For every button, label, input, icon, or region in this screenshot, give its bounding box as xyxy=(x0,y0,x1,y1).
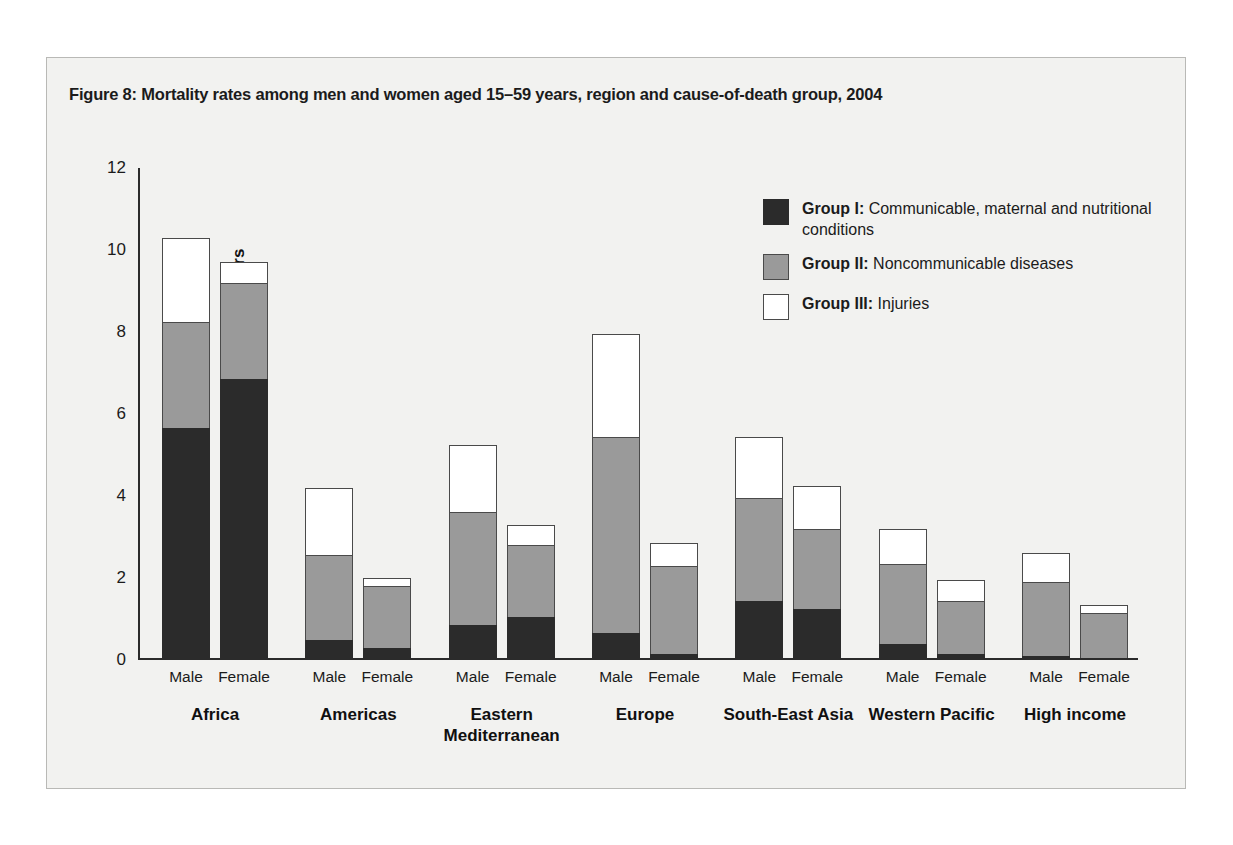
bar-segment-group1 xyxy=(735,601,783,660)
x-label-female: Female xyxy=(921,668,1001,686)
bar-segment-group2 xyxy=(879,564,927,644)
bar-segment-group1 xyxy=(592,633,640,660)
bar-segment-group3 xyxy=(363,578,411,586)
y-tick-label: 8 xyxy=(86,322,126,342)
bar-segment-group1 xyxy=(1022,656,1070,660)
bar-segment-group2 xyxy=(937,601,985,654)
bar-segment-group3 xyxy=(220,262,268,283)
bar-segment-group2 xyxy=(1080,613,1128,658)
bar-segment-group3 xyxy=(1080,605,1128,613)
bar-segment-group3 xyxy=(650,543,698,566)
y-tick-label: 4 xyxy=(86,486,126,506)
bar-segment-group1 xyxy=(937,654,985,660)
bar-segment-group1 xyxy=(162,428,210,660)
chart-legend: Group I: Communicable, maternal and nutr… xyxy=(763,198,1153,333)
bar-europe-female[interactable] xyxy=(650,543,698,660)
bar-western-pacific-female[interactable] xyxy=(937,580,985,660)
y-axis-line xyxy=(138,168,140,660)
bar-segment-group2 xyxy=(363,586,411,648)
figure-card: Figure 8: Mortality rates among men and … xyxy=(46,57,1186,789)
bar-south-east-asia-male[interactable] xyxy=(735,437,783,660)
bar-africa-male[interactable] xyxy=(162,238,210,660)
legend-item-group1[interactable]: Group I: Communicable, maternal and nutr… xyxy=(763,198,1153,240)
page-title: Figure 8: Mortality rates among men and … xyxy=(69,85,882,104)
bar-segment-group2 xyxy=(592,437,640,634)
bar-segment-group3 xyxy=(305,488,353,556)
bar-segment-group1 xyxy=(507,617,555,660)
bar-segment-group3 xyxy=(507,525,555,546)
legend-swatch-group1 xyxy=(763,199,789,225)
legend-label-group3: Group III: Injuries xyxy=(802,293,929,314)
x-label-female: Female xyxy=(1064,668,1144,686)
x-label-female: Female xyxy=(634,668,714,686)
bar-segment-group2 xyxy=(449,512,497,625)
bar-south-east-asia-female[interactable] xyxy=(793,486,841,660)
legend-item-group3[interactable]: Group III: Injuries xyxy=(763,293,1153,320)
legend-swatch-group3 xyxy=(763,294,789,320)
bar-americas-male[interactable] xyxy=(305,488,353,660)
bar-segment-group2 xyxy=(507,545,555,617)
x-label-female: Female xyxy=(204,668,284,686)
figure-page: Figure 8: Mortality rates among men and … xyxy=(0,0,1233,845)
y-tick-label: 10 xyxy=(86,240,126,260)
bar-segment-group1 xyxy=(1080,658,1128,660)
bar-segment-group3 xyxy=(449,445,497,513)
legend-item-group2[interactable]: Group II: Noncommunicable diseases xyxy=(763,253,1153,280)
bar-segment-group1 xyxy=(650,654,698,660)
bar-segment-group1 xyxy=(220,379,268,660)
legend-label-group1: Group I: Communicable, maternal and nutr… xyxy=(802,198,1153,240)
bar-europe-male[interactable] xyxy=(592,334,640,660)
bar-segment-group3 xyxy=(793,486,841,529)
bar-segment-group3 xyxy=(162,238,210,322)
bar-segment-group3 xyxy=(879,529,927,564)
bar-segment-group1 xyxy=(363,648,411,660)
bar-high-income-male[interactable] xyxy=(1022,553,1070,660)
bar-segment-group1 xyxy=(879,644,927,660)
bar-segment-group2 xyxy=(305,555,353,639)
bar-segment-group1 xyxy=(793,609,841,660)
bar-segment-group3 xyxy=(937,580,985,601)
bar-high-income-female[interactable] xyxy=(1080,605,1128,660)
y-tick-label: 12 xyxy=(86,158,126,178)
bar-segment-group2 xyxy=(650,566,698,654)
bar-americas-female[interactable] xyxy=(363,578,411,660)
bar-eastern-mediterranean-male[interactable] xyxy=(449,445,497,660)
bar-segment-group3 xyxy=(735,437,783,499)
bar-segment-group1 xyxy=(449,625,497,660)
x-label-female: Female xyxy=(347,668,427,686)
bar-segment-group2 xyxy=(1022,582,1070,656)
bar-western-pacific-male[interactable] xyxy=(879,529,927,660)
y-tick-label: 2 xyxy=(86,568,126,588)
y-tick-label: 6 xyxy=(86,404,126,424)
y-tick-label: 0 xyxy=(86,650,126,670)
bar-segment-group2 xyxy=(162,322,210,429)
bar-segment-group2 xyxy=(220,283,268,379)
legend-label-group2: Group II: Noncommunicable diseases xyxy=(802,253,1073,274)
x-region-label: High income xyxy=(985,704,1165,725)
bar-segment-group3 xyxy=(592,334,640,437)
x-label-female: Female xyxy=(777,668,857,686)
legend-swatch-group2 xyxy=(763,254,789,280)
bar-segment-group2 xyxy=(793,529,841,609)
x-label-female: Female xyxy=(491,668,571,686)
bar-africa-female[interactable] xyxy=(220,262,268,660)
bar-segment-group1 xyxy=(305,640,353,661)
bar-segment-group3 xyxy=(1022,553,1070,582)
bar-eastern-mediterranean-female[interactable] xyxy=(507,525,555,660)
bar-segment-group2 xyxy=(735,498,783,601)
